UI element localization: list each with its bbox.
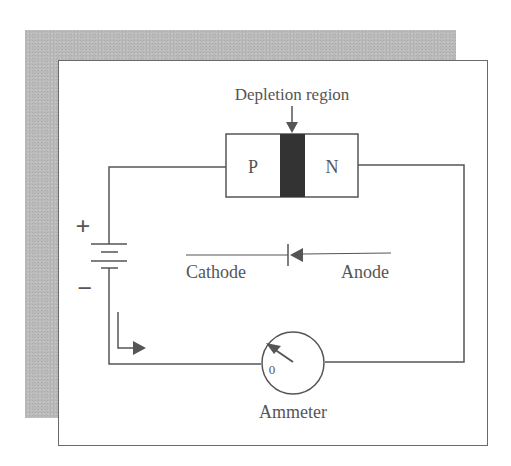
minus-sign: − <box>78 274 93 303</box>
n-region-label: N <box>326 157 339 177</box>
wire-top-left <box>109 167 226 244</box>
ammeter-zero-label: 0 <box>269 362 276 377</box>
plus-sign: + <box>76 212 91 241</box>
depletion-region-label: Depletion region <box>235 85 350 104</box>
current-direction-arrow-icon <box>118 312 146 355</box>
wire-bottom-left <box>109 268 261 364</box>
anode-label: Anode <box>341 262 389 282</box>
circuit-diagram: + − Depletion region P N Cathode Anode 0… <box>0 0 511 466</box>
depletion-arrow-icon <box>286 106 298 133</box>
cathode-label: Cathode <box>186 262 246 282</box>
ammeter-label: Ammeter <box>259 402 327 422</box>
p-region-label: P <box>248 157 258 177</box>
battery-icon <box>91 244 127 268</box>
depletion-region <box>280 134 305 197</box>
